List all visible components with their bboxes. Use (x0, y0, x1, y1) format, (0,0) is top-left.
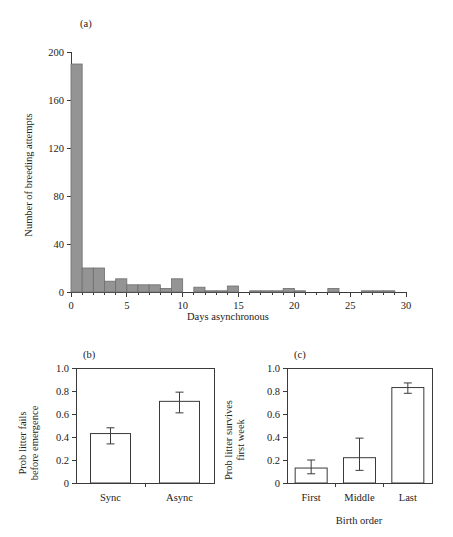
panel-a-y-tick-label: 160 (48, 95, 64, 106)
histogram-bar (227, 286, 238, 292)
histogram-bar (250, 291, 261, 292)
histogram-bar (261, 291, 272, 292)
c-category-label: Middle (344, 492, 375, 503)
panel-c-bars (295, 383, 424, 483)
panel-a-x-tick-label: 5 (124, 300, 129, 311)
panel-a: (a) Number of breeding attempts Days asy… (23, 18, 411, 322)
panel-b-y-ticks: 00.20.40.60.81.0 (56, 363, 76, 489)
c-y-tick-label: 0.6 (267, 409, 280, 420)
histogram-bar (361, 291, 372, 292)
panel-a-y-tick-label: 40 (54, 239, 65, 250)
panel-b: (b) Prob litter fails before emergence 0… (17, 349, 214, 503)
panel-a-x-tick-label: 15 (233, 300, 244, 311)
panel-a-x-ticks: 051015202530 (68, 292, 411, 311)
b-category-label: Async (166, 492, 193, 503)
b-y-tick-label: 1.0 (56, 363, 69, 374)
histogram-bar (82, 268, 93, 292)
panel-a-bars (71, 64, 395, 292)
histogram-bar (328, 288, 339, 292)
histogram-bar (373, 291, 384, 292)
panel-b-y-axis-title-line2: before emergence (29, 405, 40, 480)
c-category-label: Last (399, 492, 417, 503)
panel-c-category-labels: FirstMiddleLast (302, 492, 417, 503)
histogram-bar (294, 291, 305, 292)
histogram-bar (384, 291, 395, 292)
panel-c: (c) Prob litter survives first week Birt… (223, 349, 432, 526)
panel-a-y-tick-label: 0 (59, 287, 64, 298)
panel-c-y-axis-title-line1: Prob litter survives (223, 400, 234, 480)
b-y-tick-label: 0.6 (56, 409, 69, 420)
histogram-bar (71, 64, 82, 292)
figure-svg: (a) Number of breeding attempts Days asy… (0, 0, 453, 537)
panel-c-y-ticks: 00.20.40.60.81.0 (267, 363, 287, 489)
panel-a-y-tick-label: 80 (54, 191, 65, 202)
histogram-bar (93, 268, 104, 292)
c-y-tick-label: 1.0 (267, 363, 280, 374)
panel-a-label: (a) (80, 18, 92, 30)
c-y-tick-label: 0.8 (267, 386, 280, 397)
histogram-bar (127, 285, 138, 292)
panel-a-x-axis-title: Days asynchronous (187, 311, 269, 322)
b-y-tick-label: 0.8 (56, 386, 69, 397)
panel-a-x-tick-label: 25 (345, 300, 356, 311)
panel-b-bars (91, 392, 200, 483)
panel-a-y-ticks: 04080120160200 (48, 47, 71, 298)
histogram-bar (172, 279, 183, 292)
histogram-bar (138, 285, 149, 292)
histogram-bar (272, 291, 283, 292)
c-y-tick-label: 0 (275, 478, 280, 489)
c-y-tick-label: 0.4 (267, 432, 281, 443)
panel-c-label: (c) (294, 349, 306, 361)
c-bar (392, 388, 424, 483)
histogram-bar (205, 291, 216, 292)
panel-a-x-tick-label: 0 (68, 300, 73, 311)
panel-a-y-tick-label: 120 (48, 143, 64, 154)
histogram-bar (194, 287, 205, 292)
b-y-tick-label: 0 (64, 478, 69, 489)
figure-container: (a) Number of breeding attempts Days asy… (0, 0, 453, 537)
panel-b-label: (b) (83, 349, 96, 361)
panel-c-y-axis-title-line2: first week (235, 418, 246, 460)
b-y-tick-label: 0.2 (56, 455, 69, 466)
c-category-label: First (302, 492, 321, 503)
histogram-bar (160, 288, 171, 292)
panel-a-x-tick-label: 10 (177, 300, 188, 311)
histogram-bar (116, 279, 127, 292)
panel-a-x-tick-label: 20 (289, 300, 300, 311)
c-y-tick-label: 0.2 (267, 455, 280, 466)
histogram-bar (283, 288, 294, 292)
b-bar (160, 401, 200, 483)
histogram-bar (149, 285, 160, 292)
panel-a-y-axis-title: Number of breeding attempts (23, 113, 34, 236)
b-y-tick-label: 0.4 (56, 432, 70, 443)
b-category-label: Sync (100, 492, 121, 503)
panel-b-y-axis-title-line1: Prob litter fails (17, 412, 28, 475)
panel-c-x-axis-title: Birth order (336, 515, 383, 526)
panel-a-y-tick-label: 200 (48, 47, 64, 58)
histogram-bar (105, 281, 116, 292)
histogram-bar (216, 291, 227, 292)
panel-b-category-labels: SyncAsync (100, 492, 193, 503)
panel-c-x-ticks (335, 483, 383, 487)
panel-a-x-tick-label: 30 (401, 300, 412, 311)
